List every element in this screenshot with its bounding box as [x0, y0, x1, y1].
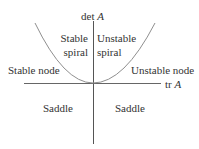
trace-determinant-diagram: det A Stable spiral Unstable spiral Stab…: [0, 0, 199, 149]
unstable-spiral-label-line2: spiral: [97, 46, 121, 58]
stable-node-label: Stable node: [8, 64, 60, 76]
tr-var: A: [174, 78, 181, 90]
saddle-right-label: Saddle: [115, 102, 145, 114]
stable-spiral-label-line1: Stable: [58, 32, 88, 44]
saddle-left-label: Saddle: [43, 102, 73, 114]
unstable-node-label: Unstable node: [131, 64, 194, 76]
vertical-axis-label: det A: [81, 10, 104, 22]
tr-label: tr: [165, 78, 172, 90]
horizontal-axis-label: tr A: [165, 78, 181, 90]
unstable-spiral-label-line1: Unstable: [97, 32, 136, 44]
det-label: det: [81, 10, 94, 22]
det-var: A: [97, 10, 104, 22]
stable-spiral-label-line2: spiral: [58, 46, 88, 58]
